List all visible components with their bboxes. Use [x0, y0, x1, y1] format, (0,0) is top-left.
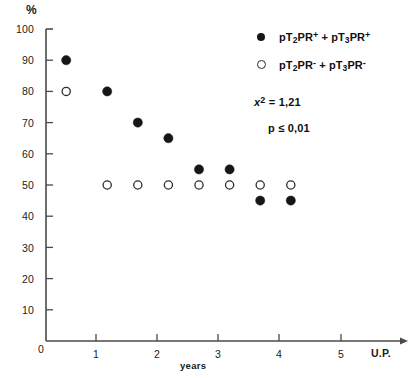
data-point-filled [103, 87, 112, 96]
data-point-filled [164, 134, 173, 143]
series-open-circles [62, 87, 295, 189]
y-tick-marks [46, 60, 53, 310]
data-point-open [195, 181, 203, 189]
data-point-open [287, 181, 295, 189]
x-tick-marks [96, 334, 341, 341]
data-point-open [62, 87, 70, 95]
data-point-filled [62, 56, 71, 65]
plot-area [0, 0, 414, 378]
data-point-open [134, 181, 142, 189]
data-point-filled [286, 196, 295, 205]
data-point-filled [225, 165, 234, 174]
data-point-open [164, 181, 172, 189]
data-point-open [226, 181, 234, 189]
x-axis-arrow-icon [400, 338, 408, 345]
chart-container: % 100 90 80 70 60 50 40 30 20 10 0 1 2 3… [0, 0, 414, 378]
data-point-filled [194, 165, 203, 174]
data-point-filled [256, 196, 265, 205]
data-point-filled [133, 118, 142, 127]
data-point-open [256, 181, 264, 189]
data-point-open [103, 181, 111, 189]
